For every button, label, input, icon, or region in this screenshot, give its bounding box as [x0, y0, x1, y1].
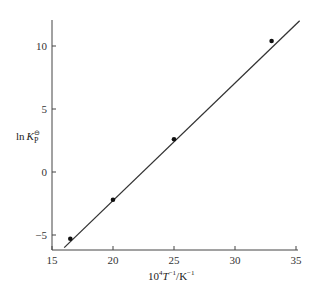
axes [52, 20, 298, 250]
x-axis-label: 104T−1/K−1 [148, 269, 195, 282]
y-tick-label: −5 [35, 229, 47, 241]
x-ticks: 1520253035 [47, 246, 303, 266]
data-points [68, 39, 274, 241]
y-axis-label: lnK⊖P [16, 129, 40, 145]
y-tick-label: 5 [42, 103, 48, 115]
data-point [269, 39, 274, 44]
y-ticks: −50510 [35, 40, 56, 241]
y-tick-label: 0 [42, 166, 48, 178]
x-tick-label: 30 [230, 254, 242, 266]
x-tick-label: 20 [108, 254, 120, 266]
chart: −50510 1520253035 lnK⊖P 104T−1/K−1 [0, 0, 322, 287]
data-point [172, 137, 177, 142]
x-tick-label: 35 [291, 254, 303, 266]
fit-line [64, 21, 299, 248]
data-point [68, 236, 73, 241]
data-point [111, 197, 116, 202]
x-tick-label: 25 [169, 254, 181, 266]
y-tick-label: 10 [36, 40, 48, 52]
regression-line [64, 21, 299, 248]
x-tick-label: 15 [47, 254, 59, 266]
